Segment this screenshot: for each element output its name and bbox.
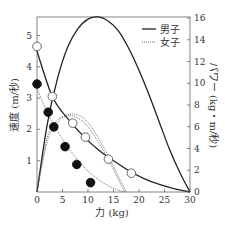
y-right-tick-label: 6 — [194, 122, 200, 132]
female-data-point — [72, 160, 81, 169]
y-right-tick-label: 2 — [194, 165, 200, 175]
y-right-tick-label: 4 — [194, 144, 200, 154]
y-right-tick-label: 16 — [194, 13, 206, 23]
male-data-point — [48, 92, 57, 101]
legend-male-label: 男子 — [160, 24, 180, 35]
x-tick-label: 25 — [159, 195, 171, 205]
y-left-tick-label: 1 — [26, 156, 32, 166]
female-data-point — [86, 178, 95, 187]
legend-female-label: 女子 — [160, 36, 180, 48]
x-tick-label: 10 — [82, 195, 94, 205]
female-data-point — [61, 142, 70, 151]
y-right-tick-label: 14 — [194, 35, 206, 45]
force-velocity-power-chart: 051015202530123450246810121416 男子 女子 力 (… — [0, 0, 225, 231]
y-left-axis-label: 速度 (m/秒) — [8, 78, 20, 132]
x-axis-label: 力 (kg) — [95, 206, 129, 218]
x-tick-label: 20 — [133, 195, 145, 205]
male-data-point — [33, 42, 42, 51]
curve — [37, 89, 125, 192]
y-left-tick-label: 4 — [26, 62, 32, 72]
x-tick-label: 0 — [34, 195, 40, 205]
y-right-tick-label: 10 — [194, 78, 206, 88]
x-tick-label: 15 — [108, 195, 120, 205]
y-left-tick-label: 5 — [26, 31, 32, 41]
x-tick-label: 5 — [60, 195, 66, 205]
male-data-point — [127, 169, 136, 178]
female-data-point — [33, 80, 42, 89]
y-left-tick-label: 3 — [26, 93, 32, 103]
male-data-point — [81, 133, 90, 142]
y-right-tick-label: 0 — [194, 187, 200, 197]
female-data-point — [44, 108, 53, 117]
y-left-tick-label: 2 — [26, 124, 32, 134]
male-data-point — [104, 155, 113, 164]
legend: 男子 女子 — [142, 24, 180, 48]
y-right-tick-label: 8 — [194, 100, 200, 110]
curve — [37, 51, 190, 192]
y-right-tick-label: 12 — [194, 57, 205, 67]
y-right-axis-label: パワー (kg・m/秒) — [208, 62, 220, 148]
female-data-point — [50, 123, 59, 132]
male-data-point — [68, 119, 77, 128]
